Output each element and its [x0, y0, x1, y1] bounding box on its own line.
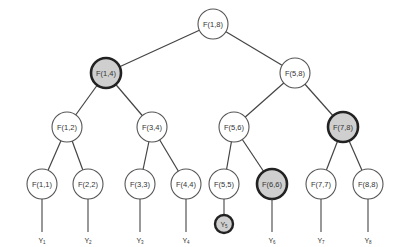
node-label: F(3,3) — [130, 180, 151, 189]
tree-node-n12: F(1,2) — [52, 112, 82, 142]
output-y7: Y7 — [317, 199, 325, 245]
node-label: F(1,1) — [32, 180, 53, 189]
tree-node-n56: F(5,6) — [219, 112, 249, 142]
tree-edge — [106, 24, 213, 73]
node-label: F(7,7) — [311, 180, 332, 189]
tree-node-n77: F(7,7) — [306, 169, 336, 199]
tree-canvas: F(1,8)F(1,4)F(5,8)F(1,2)F(3,4)F(5,6)F(7,… — [0, 0, 400, 247]
tree-node-n11: F(1,1) — [27, 169, 57, 199]
node-label: F(1,2) — [57, 123, 78, 132]
output-label: Y1 — [38, 237, 46, 246]
output-label: Y2 — [84, 237, 92, 246]
tree-node-n14: F(1,4) — [91, 58, 121, 88]
output-y2: Y2 — [84, 199, 92, 245]
output-y4: Y4 — [182, 199, 190, 245]
tree-node-n18: F(1,8) — [198, 9, 228, 39]
node-label: F(4,4) — [176, 180, 197, 189]
output-y6: Y6 — [268, 199, 276, 245]
node-label: F(5,8) — [285, 69, 306, 78]
tree-diagram: F(1,8)F(1,4)F(5,8)F(1,2)F(3,4)F(5,6)F(7,… — [0, 0, 400, 247]
output-label: Y4 — [182, 237, 190, 246]
tree-node-n78: F(7,8) — [328, 112, 358, 142]
nodes-layer: F(1,8)F(1,4)F(5,8)F(1,2)F(3,4)F(5,6)F(7,… — [27, 9, 383, 199]
output-label: Y3 — [136, 237, 144, 246]
output-label: Y8 — [364, 237, 372, 246]
tree-node-n58: F(5,8) — [280, 58, 310, 88]
output-y3: Y3 — [136, 199, 144, 245]
output-label: Y7 — [317, 237, 325, 246]
tree-node-n55: F(5,5) — [209, 169, 239, 199]
tree-node-n66: F(6,6) — [257, 169, 287, 199]
node-label: F(5,6) — [224, 123, 245, 132]
output-y5: Y5 — [215, 199, 233, 233]
node-label: F(6,6) — [262, 180, 283, 189]
tree-node-n34: F(3,4) — [137, 112, 167, 142]
node-label: F(1,4) — [96, 69, 117, 78]
node-label: F(2,2) — [78, 180, 99, 189]
node-label: F(8,8) — [358, 180, 379, 189]
tree-node-n44: F(4,4) — [171, 169, 201, 199]
output-y8: Y8 — [364, 199, 372, 245]
outputs-layer: Y1Y2Y3Y4Y5Y6Y7Y8 — [38, 199, 372, 245]
output-label: Y6 — [268, 237, 276, 246]
edges-layer — [42, 24, 368, 184]
node-label: F(5,5) — [214, 180, 235, 189]
node-label: F(7,8) — [333, 123, 354, 132]
tree-node-n22: F(2,2) — [73, 169, 103, 199]
node-label: F(3,4) — [142, 123, 163, 132]
tree-node-n88: F(8,8) — [353, 169, 383, 199]
tree-node-n33: F(3,3) — [125, 169, 155, 199]
node-label: F(1,8) — [203, 20, 224, 29]
output-y1: Y1 — [38, 199, 46, 245]
